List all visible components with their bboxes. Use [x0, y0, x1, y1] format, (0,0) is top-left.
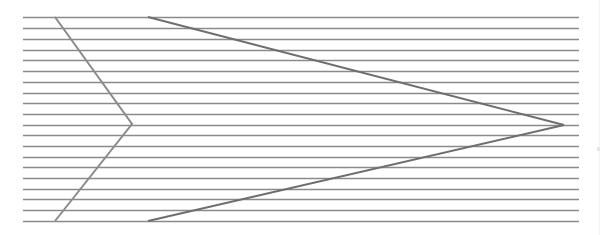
chevrons-group: [55, 17, 564, 221]
right-arrow-chevron: [148, 17, 564, 221]
illusion-canvas: [0, 0, 601, 235]
right-edge-mark: [597, 147, 600, 151]
left-chevron: [55, 17, 132, 221]
right-edge-divider: [599, 0, 600, 235]
horizontal-lines-group: [23, 18, 579, 222]
illusion-figure: [0, 0, 601, 235]
